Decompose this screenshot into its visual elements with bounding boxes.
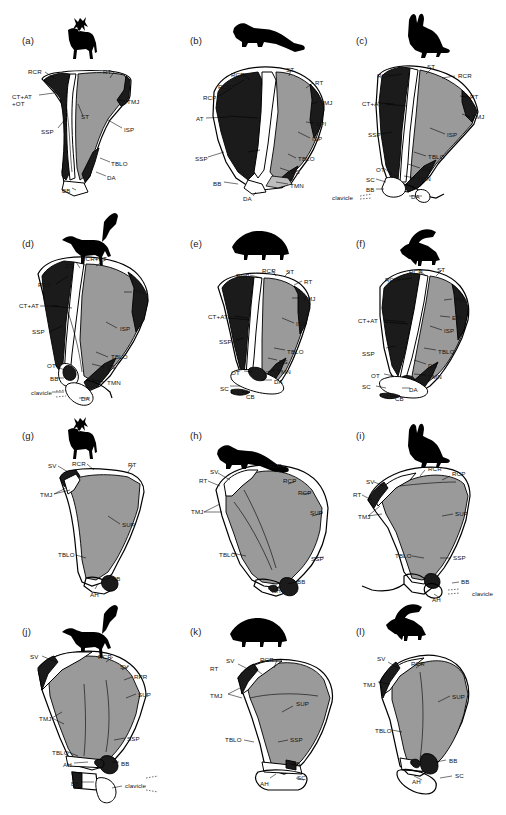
anatomy-label-a-ct-at: CT+AT — [12, 93, 32, 100]
anatomy-label-c-ds: DS — [422, 165, 431, 172]
anatomy-label-g-sv: SV — [48, 462, 56, 469]
anatomy-label-a-tmj: TMJ — [127, 98, 139, 105]
anatomy-label-j-tmj: TMJ — [39, 715, 51, 722]
panel-letter-a: (a) — [22, 35, 34, 46]
anatomy-label-a-rcr: RCR — [28, 68, 42, 75]
anatomy-label-b-rcr: RCR — [231, 71, 245, 78]
anatomy-label-b-ssp: SSP — [195, 155, 208, 162]
deer-silhouette — [68, 17, 97, 59]
anatomy-label-i-tmj: TMJ — [358, 513, 370, 520]
anatomy-label-l-sc: SC — [455, 772, 464, 779]
anatomy-label-h-ssp: SSP — [311, 555, 324, 562]
panel-letter-k: (k) — [190, 626, 202, 637]
anatomy-label-e-ssp: SSP — [219, 338, 232, 345]
anatomy-label-h-sv: SV — [210, 468, 218, 475]
anatomy-label-k-rcr: RCR — [260, 656, 274, 663]
anatomy-label-i-bb: BB — [461, 578, 469, 585]
anatomy-label-b-isp: ISP — [312, 135, 322, 142]
anatomy-label-j-tblo: TBLO — [52, 749, 69, 756]
anatomy-label-e-st: ST — [286, 268, 294, 275]
anatomy-label-e-ct-at: CT+AT — [208, 313, 228, 320]
anatomy-label-c-da: DA — [411, 193, 420, 200]
anatomy-label-l-sup: SUP — [452, 693, 465, 700]
anatomy-label-b-tblo: TBLO — [298, 155, 315, 162]
anatomy-label-b-da: DA — [243, 195, 252, 202]
anatomy-label-c-isp: ISP — [447, 131, 457, 138]
anatomy-label-e-tmn: TMN — [277, 368, 291, 375]
anatomy-label-h-bb: BB — [297, 578, 305, 585]
anatomy-label-d-tmj: TMJ — [135, 288, 147, 295]
anatomy-label-d-ds: DS — [107, 363, 116, 370]
anatomy-label-d-bb: BB — [50, 375, 58, 382]
anatomy-label-k-bb: BB — [292, 760, 300, 767]
anatomy-label-k-rt: RT — [210, 665, 218, 672]
anatomy-label-c-ssp: SSP — [368, 131, 381, 138]
panel-letter-c: (c) — [356, 35, 368, 46]
anatomy-label-a-st: ST — [81, 113, 89, 120]
anatomy-label-c-rcr: RCR — [458, 72, 472, 79]
anatomy-label-b-epi: EPI — [316, 120, 326, 127]
anatomy-label-a-da: DA — [107, 174, 116, 181]
anatomy-label-a-bb: BB — [62, 187, 70, 194]
anatomy-label-a--ot: +OT — [12, 100, 25, 107]
anatomy-label-k-sv: SV — [226, 657, 234, 664]
anatomy-label-e-ds: DS — [279, 358, 288, 365]
anatomy-label-b-tmj: TMJ — [320, 99, 332, 106]
anatomy-label-h-tblo: TBLO — [219, 551, 236, 558]
anatomy-label-j-rpr: RPR — [134, 673, 147, 680]
anatomy-label-i-rt: RT — [353, 491, 361, 498]
anatomy-label-l-tmj: TMJ — [363, 681, 375, 688]
hedgehog-silhouette — [232, 231, 289, 260]
anatomy-label-k-tblo: TBLO — [225, 736, 242, 743]
anatomy-label-f-ot: OT — [371, 372, 380, 379]
anatomy-label-b-bb: BB — [213, 180, 221, 187]
anatomy-label-l-bb: BB — [449, 757, 457, 764]
anatomy-label-b-tmn: TMN — [290, 182, 304, 189]
anatomy-label-d-rcp: RCP — [38, 281, 51, 288]
anatomy-label-i-rcr: RCR — [428, 465, 442, 472]
anatomy-label-c-bb: BB — [366, 186, 374, 193]
anatomy-label-e-rcr: RCR — [262, 267, 276, 274]
anatomy-label-b-rcp: RCP — [203, 94, 216, 101]
anatomy-label-d-da: DA — [81, 395, 90, 402]
anatomy-label-f-rcp: RCP — [385, 276, 398, 283]
anatomy-label-k-ah: AH — [260, 780, 269, 787]
anatomy-label-c-clavicle: clavicle — [332, 194, 353, 201]
anatomy-label-e-tblo: TBLO — [287, 348, 304, 355]
anatomy-label-d-ssp: SSP — [32, 328, 45, 335]
anatomy-label-j-bb: BB — [121, 760, 129, 767]
panel-i-drawing — [362, 424, 470, 598]
anatomy-label-e-isp: ISP — [296, 320, 306, 327]
anatomy-label-i-ssp: SSP — [453, 554, 466, 561]
anatomy-label-a-ssp: SSP — [41, 128, 54, 135]
anatomy-label-e-rcp: RCP — [236, 272, 249, 279]
anatomy-label-j-sup: SUP — [138, 691, 151, 698]
anatomy-label-i-clavicle: clavicle — [472, 590, 493, 597]
deer-silhouette — [68, 417, 97, 459]
anatomy-label-j-ah: AH — [63, 761, 72, 768]
anatomy-label-j-rcr: RCR — [98, 653, 112, 660]
marten-silhouette — [233, 23, 305, 52]
anatomy-label-d-ot: OT — [47, 362, 56, 369]
anatomy-label-e-cb: CB — [246, 393, 255, 400]
anatomy-label-c-tmj: TMJ — [472, 113, 484, 120]
anatomy-label-h-tmj: TMJ — [191, 508, 203, 515]
anatomy-label-d-rcr-rt: RCR+RT — [81, 255, 107, 262]
panel-h-drawing — [204, 445, 328, 596]
panel-b-drawing — [206, 23, 324, 196]
panel-letter-i: (i) — [356, 430, 365, 441]
anatomy-label-h-rcr: RCR — [268, 462, 282, 469]
anatomy-label-f-tblo: TBLO — [438, 348, 455, 355]
anatomy-label-k-sup: SUP — [296, 700, 309, 707]
panel-letter-b: (b) — [190, 35, 202, 46]
anatomy-label-b-ds: DS — [291, 168, 300, 175]
anatomy-label-f-tmn: TMN — [428, 373, 442, 380]
anatomy-label-f-cb: CB — [395, 395, 404, 402]
anatomy-label-g-tmj: TMJ — [40, 491, 52, 498]
panel-letter-g: (g) — [22, 430, 34, 441]
anatomy-label-i-ah: AH — [432, 596, 441, 603]
anatomy-label-h-sup: SUP — [310, 509, 323, 516]
anatomy-label-c-tblo: TBLO — [428, 153, 445, 160]
anatomy-label-k-tmj: TMJ — [210, 692, 222, 699]
anatomy-label-f-epi: EPI — [452, 314, 462, 321]
